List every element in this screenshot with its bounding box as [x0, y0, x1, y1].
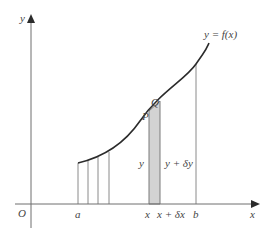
area-under-curve-diagram: y x O y = f(x) P Q a x x + δx b y y + δy [0, 0, 272, 228]
y-axis-label: y [19, 12, 25, 24]
tick-x-label: x [144, 208, 150, 220]
point-q-label: Q [151, 96, 159, 108]
curve-label: y = f(x) [203, 28, 237, 41]
tick-a-label: a [75, 208, 81, 220]
shaded-strip [149, 101, 160, 204]
x-axis-label: x [249, 208, 255, 220]
tick-x-dx-label: x + δx [156, 208, 185, 220]
point-p-label: P [141, 110, 149, 122]
height-y-dy-label: y + δy [164, 157, 193, 169]
x-axis-arrow-icon [251, 200, 260, 208]
height-y-label: y [138, 157, 144, 169]
y-axis-arrow-icon [27, 14, 35, 23]
origin-label: O [18, 207, 26, 219]
tick-b-label: b [193, 208, 199, 220]
curve-f [78, 43, 209, 163]
